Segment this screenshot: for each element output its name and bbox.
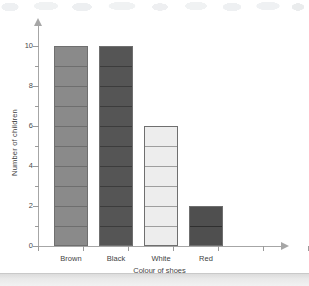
- bar-segment-line: [55, 146, 87, 147]
- y-axis-major-tick: [33, 206, 39, 207]
- bar: [144, 126, 178, 246]
- x-axis-tick: [173, 246, 174, 251]
- x-axis-category-label: Red: [178, 254, 234, 263]
- bar-segment-line: [55, 86, 87, 87]
- y-axis-minor-tick: [35, 106, 39, 107]
- bar-segment-line: [100, 146, 132, 147]
- bar-segment-line: [100, 66, 132, 67]
- y-axis-tick-label: 10: [11, 42, 33, 50]
- x-axis-tick: [218, 246, 219, 251]
- y-axis-major-tick: [33, 86, 39, 87]
- bar-segment-line: [55, 166, 87, 167]
- x-axis-tick: [263, 246, 264, 251]
- bar-segment-line: [55, 186, 87, 187]
- y-axis-tick-label: 8: [11, 82, 33, 90]
- x-axis-tick: [38, 246, 39, 251]
- y-axis-tick-label: 6: [11, 122, 33, 130]
- bar-segment-line: [190, 226, 222, 227]
- bar-segment-line: [100, 206, 132, 207]
- x-axis-tick: [308, 246, 309, 251]
- bar: [54, 46, 88, 246]
- x-axis-tick: [83, 246, 84, 251]
- y-axis-line: [38, 26, 39, 247]
- bar: [189, 206, 223, 246]
- y-axis-minor-tick: [35, 226, 39, 227]
- y-axis-minor-tick: [35, 66, 39, 67]
- y-axis-tick-label: 2: [11, 202, 33, 210]
- bar-segment-line: [55, 106, 87, 107]
- x-axis-line: [38, 246, 281, 247]
- y-axis-arrow-icon: [34, 18, 42, 26]
- bar-segment-line: [145, 146, 177, 147]
- bar-segment-line: [100, 226, 132, 227]
- y-axis-tick-label: 4: [11, 162, 33, 170]
- bar-segment-line: [145, 206, 177, 207]
- plot-area: Number of children 0246810 BrownBlackWhi…: [0, 0, 309, 286]
- bar-segment-line: [145, 166, 177, 167]
- y-axis-major-tick: [33, 46, 39, 47]
- y-axis-tick-label: 0: [11, 242, 33, 250]
- bar-segment-line: [145, 226, 177, 227]
- bar-segment-line: [55, 66, 87, 67]
- bar: [99, 46, 133, 246]
- x-axis-arrow-icon: [281, 242, 289, 250]
- y-axis-major-tick: [33, 166, 39, 167]
- y-axis-major-tick: [33, 126, 39, 127]
- bar-segment-line: [100, 106, 132, 107]
- bar-segment-line: [100, 86, 132, 87]
- bar-segment-line: [55, 226, 87, 227]
- x-axis-tick: [128, 246, 129, 251]
- bar-segment-line: [100, 126, 132, 127]
- y-axis-minor-tick: [35, 146, 39, 147]
- bar-segment-line: [55, 126, 87, 127]
- page-bottom-band: [0, 274, 309, 286]
- bar-segment-line: [100, 166, 132, 167]
- bar-segment-line: [145, 186, 177, 187]
- bar-chart: Number of children 0246810 BrownBlackWhi…: [0, 0, 309, 286]
- y-axis-title: Number of children: [10, 93, 19, 193]
- bar-segment-line: [100, 186, 132, 187]
- bar-segment-line: [55, 206, 87, 207]
- y-axis-minor-tick: [35, 186, 39, 187]
